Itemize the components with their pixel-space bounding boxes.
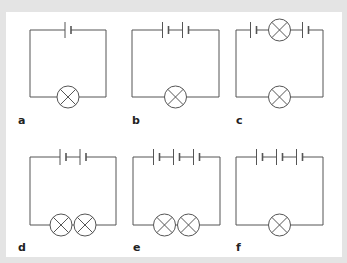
cell-icon — [60, 149, 66, 165]
cell-icon — [257, 149, 263, 165]
circuit-e: e — [133, 149, 220, 254]
circuit-label: a — [18, 114, 25, 127]
circuit-label: c — [236, 114, 243, 127]
lamp-icon — [165, 86, 187, 108]
lamp-icon — [57, 86, 79, 108]
lamp-icon — [74, 214, 96, 236]
cell-icon — [65, 22, 71, 38]
circuit-label: f — [236, 241, 241, 254]
cell-icon — [80, 149, 86, 165]
circuit-b: b — [132, 22, 219, 127]
lamp-icon — [269, 86, 291, 108]
lamp-icon — [178, 214, 200, 236]
cell-icon — [174, 149, 180, 165]
cell-icon — [154, 149, 160, 165]
lamp-icon — [50, 214, 72, 236]
lamp-icon — [269, 19, 291, 41]
circuit-label: b — [132, 114, 140, 127]
circuit-figure: abcdef — [0, 0, 347, 263]
cell-icon — [251, 22, 257, 38]
circuit-c: c — [236, 19, 323, 127]
cell-icon — [163, 22, 169, 38]
cell-icon — [183, 22, 189, 38]
circuit-f: f — [236, 149, 323, 254]
cell-icon — [297, 149, 303, 165]
cell-icon — [303, 22, 309, 38]
circuit-a: a — [18, 22, 106, 127]
circuit-label: d — [18, 241, 26, 254]
lamp-icon — [269, 214, 291, 236]
cell-icon — [194, 149, 200, 165]
circuit-label: e — [133, 241, 140, 254]
cell-icon — [277, 149, 283, 165]
circuit-d: d — [18, 149, 116, 254]
lamp-icon — [154, 214, 176, 236]
